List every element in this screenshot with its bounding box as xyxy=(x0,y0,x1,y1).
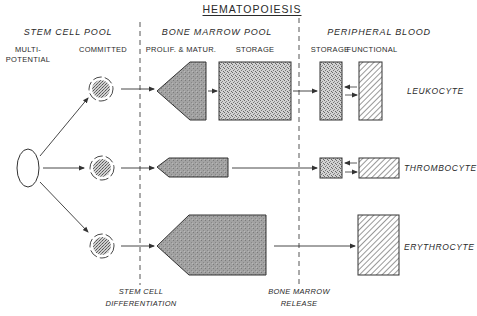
label-thrombocyte: THROMBOCYTE xyxy=(404,163,477,173)
thrombocyte-blood-storage xyxy=(320,158,342,178)
thrombocyte-prolif-matur xyxy=(157,158,228,177)
committed-cell-erythrocyte xyxy=(90,234,114,258)
section-stem-cell-pool: STEM CELL POOL xyxy=(24,27,113,37)
sub-committed: COMMITTED xyxy=(79,45,127,54)
label-bone-marrow-release-2: RELEASE xyxy=(281,299,318,308)
leukocyte-marrow-storage xyxy=(219,62,291,120)
label-stem-cell-differentiation-2: DIFFERENTIATION xyxy=(105,299,176,308)
sub-blood-storage: STORAGE xyxy=(311,45,350,54)
committed-cell-leukocyte xyxy=(89,77,113,101)
section-peripheral-blood: PERIPHERAL BLOOD xyxy=(327,27,431,37)
section-bone-marrow-pool: BONE MARROW POOL xyxy=(162,27,272,37)
leukocyte-blood-functional xyxy=(359,62,382,120)
erythrocyte-prolif-matur xyxy=(157,215,266,275)
label-erythrocyte: ERYTHROCYTE xyxy=(404,242,475,252)
leukocyte-prolif-matur xyxy=(157,62,206,120)
sub-prolif-matur: PROLIF. & MATUR. xyxy=(146,45,217,54)
leukocyte-blood-storage xyxy=(320,62,342,120)
label-bone-marrow-release-1: BONE MARROW xyxy=(268,287,330,296)
committed-cell-thrombocyte xyxy=(90,156,114,180)
diagram-title: HEMATOPOIESIS xyxy=(203,3,302,15)
sub-multi: MULTI- xyxy=(15,45,41,54)
sub-marrow-storage: STORAGE xyxy=(236,45,275,54)
label-leukocyte: LEUKOCYTE xyxy=(407,86,464,96)
sub-potential: POTENTIAL xyxy=(6,55,50,64)
label-stem-cell-differentiation-1: STEM CELL xyxy=(119,287,163,296)
thrombocyte-blood-functional xyxy=(359,158,399,178)
multipotential-stem-cell xyxy=(17,149,39,187)
erythrocyte-blood-functional xyxy=(358,215,399,275)
sub-blood-functional: FUNCTIONAL xyxy=(347,45,398,54)
